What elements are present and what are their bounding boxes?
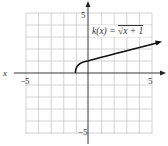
x-axis-label: x: [3, 69, 7, 78]
tick-y-neg5: −5: [78, 128, 88, 137]
graph: [0, 0, 168, 146]
function-label: k(x) = √x + 1: [92, 27, 143, 37]
tick-y-pos5: 5: [81, 11, 86, 20]
y-axis-arrow-icon: [86, 1, 91, 7]
tick-x-pos5: 5: [148, 77, 153, 86]
curve-arrow-icon: [155, 41, 162, 46]
function-radical: √x + 1: [118, 25, 143, 36]
tick-x-neg5: −5: [20, 77, 30, 86]
function-name: k(x) =: [92, 26, 118, 36]
x-axis-arrow-icon: [160, 71, 166, 76]
